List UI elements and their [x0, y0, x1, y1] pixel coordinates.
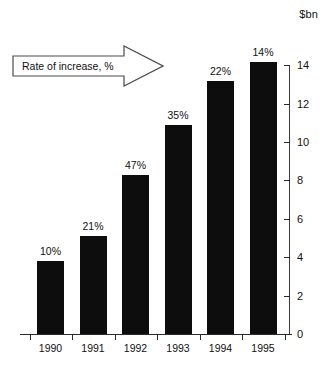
y-axis-tick	[284, 296, 290, 297]
bar-value-label: 21%	[82, 220, 103, 232]
bar	[250, 62, 277, 334]
y-axis-tick	[284, 65, 290, 66]
bar-group: 47%1992	[122, 175, 149, 334]
bar-group: 21%1991	[80, 236, 107, 334]
bar-value-label: 22%	[210, 65, 231, 77]
x-axis-endcap	[285, 335, 286, 340]
bar	[37, 261, 64, 334]
x-axis-tick	[200, 335, 201, 340]
x-axis-line	[20, 334, 292, 335]
rate-of-increase-callout: Rate of increase, %	[12, 45, 164, 87]
x-axis-category-label: 1994	[209, 342, 232, 354]
x-axis-category-label: 1991	[81, 342, 104, 354]
y-axis-tick-label: 10	[297, 136, 309, 148]
x-axis-tick	[157, 335, 158, 340]
y-axis-tick	[284, 257, 290, 258]
x-axis-tick	[72, 335, 73, 340]
bar-value-label: 14%	[252, 46, 273, 58]
bar-value-label: 10%	[40, 245, 61, 257]
y-axis-line	[289, 65, 290, 334]
y-axis-tick	[284, 142, 290, 143]
x-axis-category-label: 1995	[251, 342, 274, 354]
y-axis-tick-label: 0	[297, 328, 303, 340]
y-axis-tick-label: 8	[297, 174, 303, 186]
bar-group: 22%1994	[207, 81, 234, 334]
x-axis-tick	[115, 335, 116, 340]
x-axis-tick	[242, 335, 243, 340]
y-axis-tick-label: 2	[297, 290, 303, 302]
bar-group: 10%1990	[37, 261, 64, 334]
bar-group: 14%1995	[250, 62, 277, 334]
bar-group: 35%1993	[165, 125, 192, 334]
y-axis-tick	[284, 180, 290, 181]
x-axis-category-label: 1992	[124, 342, 147, 354]
x-axis-endcap	[30, 335, 31, 340]
y-axis-tick-label: 12	[297, 98, 309, 110]
bar-chart: $bn 10%199021%199147%199235%199322%19941…	[0, 0, 324, 365]
y-axis-tick	[284, 219, 290, 220]
bar	[207, 81, 234, 334]
x-axis-category-label: 1990	[39, 342, 62, 354]
y-axis-tick	[284, 104, 290, 105]
x-axis-category-label: 1993	[166, 342, 189, 354]
bar-value-label: 35%	[167, 109, 188, 121]
y-axis-tick-label: 14	[297, 59, 309, 71]
y-axis-tick-label: 6	[297, 213, 303, 225]
y-axis-tick-label: 4	[297, 251, 303, 263]
bar	[80, 236, 107, 334]
bar	[122, 175, 149, 334]
callout-label: Rate of increase, %	[22, 60, 114, 72]
bar	[165, 125, 192, 334]
bar-value-label: 47%	[125, 159, 146, 171]
